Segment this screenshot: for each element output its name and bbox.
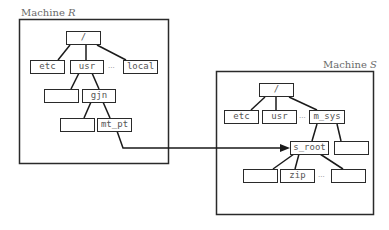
arrowhead-icon xyxy=(280,144,290,152)
machine-s-label-var: S xyxy=(370,59,377,70)
machine-r-edges xyxy=(58,45,126,118)
r-ellipsis: ··· xyxy=(108,64,115,72)
r-node-mt-pt: mt_pt xyxy=(97,118,132,132)
machine-s-edges xyxy=(251,97,343,169)
s-node-zip: zip xyxy=(280,169,315,183)
s-node-root: / xyxy=(259,83,294,97)
r-node-root: / xyxy=(66,31,101,45)
s-node-etc: etc xyxy=(224,110,259,124)
machine-r-label: Machine R xyxy=(21,7,76,18)
s-ellipsis: ··· xyxy=(299,114,306,122)
r-node-blank-b xyxy=(60,118,95,132)
r-node-gjn: gjn xyxy=(82,89,116,103)
r-node-etc: etc xyxy=(30,60,65,74)
r-node-usr: usr xyxy=(70,60,104,74)
machine-s-label-prefix: Machine xyxy=(323,59,370,70)
s-ellipsis-2: ··· xyxy=(318,173,325,181)
s-node-blank-far xyxy=(331,169,366,183)
s-node-blank-right xyxy=(334,141,369,155)
machine-r-label-var: R xyxy=(68,7,76,18)
r-node-local: local xyxy=(123,60,158,74)
s-node-usr: usr xyxy=(262,110,297,124)
r-node-blank-a xyxy=(44,89,79,103)
s-node-blank-left xyxy=(243,169,278,183)
machine-s-label: Machine S xyxy=(323,59,377,70)
machine-r-label-prefix: Machine xyxy=(21,7,68,18)
mount-link-arrow xyxy=(117,131,290,152)
s-node-m-sys: m_sys xyxy=(309,110,345,124)
s-node-s-root: s_root xyxy=(290,141,329,155)
diagram-canvas: Machine R Machine S / etc usr ··· local … xyxy=(0,0,389,230)
